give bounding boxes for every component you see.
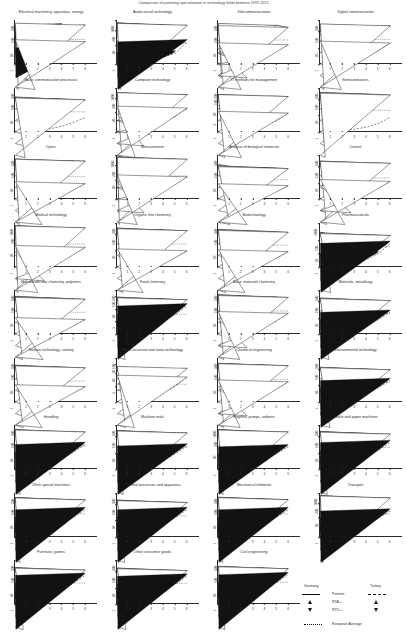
axes — [217, 223, 300, 267]
x-tick-label: 3 — [150, 270, 152, 274]
x-tick-label: 2 — [341, 540, 343, 544]
x-axis-tick-labels: 123456 — [116, 336, 199, 342]
y-axis-tick-labels: 1520100200 — [204, 90, 217, 136]
panel-title: Environmental technology — [306, 348, 406, 353]
axes — [319, 88, 402, 132]
plot-area: 110100500123456 — [1, 421, 101, 479]
panel-title: Other special machines — [1, 483, 101, 488]
axes — [116, 155, 199, 199]
x-tick-label: 2 — [138, 472, 140, 476]
x-tick-label: 4 — [162, 337, 164, 341]
x-tick-label: 3 — [150, 337, 152, 341]
x-tick-label: 3 — [150, 67, 152, 71]
panel-title: Food chemistry — [103, 280, 203, 285]
x-tick-label: 5 — [377, 337, 379, 341]
x-tick-label: 3 — [49, 270, 51, 274]
y-axis-tick-labels: 110100500 — [103, 427, 116, 473]
x-tick-label: 2 — [138, 607, 140, 611]
x-tick-label: 3 — [49, 67, 51, 71]
x-tick-label: 2 — [37, 607, 39, 611]
x-tick-label: 5 — [72, 270, 74, 274]
x-tick-label: 6 — [84, 270, 86, 274]
axes — [217, 20, 300, 64]
panel-5: Basic communication processes11010050012… — [1, 78, 101, 146]
x-tick-label: 6 — [287, 270, 289, 274]
x-tick-label: 6 — [287, 540, 289, 544]
y-axis-tick-labels: 1202001000 — [103, 157, 116, 203]
x-tick-label: 3 — [49, 607, 51, 611]
x-tick-label: 6 — [389, 135, 391, 139]
y-axis-tick-labels: 110100500 — [1, 427, 14, 473]
x-tick-label: 4 — [365, 472, 367, 476]
panel-14: Organic fine chemistry110100500123456 — [103, 213, 203, 281]
x-axis-tick-labels: 123456 — [116, 404, 199, 410]
x-tick-label: 3 — [353, 472, 355, 476]
x-tick-label: 2 — [240, 337, 242, 341]
axes — [217, 358, 300, 402]
x-tick-label: 2 — [37, 337, 39, 341]
panel-title: Engines, pumps, turbines — [204, 415, 304, 420]
x-tick-label: 4 — [264, 135, 266, 139]
x-tick-label: 4 — [162, 472, 164, 476]
x-tick-label: 4 — [365, 405, 367, 409]
x-tick-label: 3 — [252, 405, 254, 409]
x-tick-label: 5 — [174, 270, 176, 274]
x-tick-label: 4 — [61, 337, 63, 341]
x-tick-label: 3 — [49, 405, 51, 409]
x-tick-label: 6 — [186, 540, 188, 544]
panel-title: Micro-structural and nano-technology — [103, 348, 203, 353]
x-tick-label: 2 — [37, 472, 39, 476]
plot-area: 1202001000123456 — [204, 421, 304, 479]
x-axis-tick-labels: 123456 — [217, 606, 300, 612]
x-tick-label: 3 — [353, 135, 355, 139]
y-axis-tick-labels: 110100500 — [1, 495, 14, 541]
y-axis-tick-labels: 110100500 — [306, 427, 319, 473]
panel-17: Macromolecular chemistry, polymers110100… — [1, 280, 101, 348]
x-tick-label: 6 — [389, 405, 391, 409]
x-tick-label: 4 — [61, 202, 63, 206]
panel-31: Mechanical elements110100500123456 — [204, 483, 304, 551]
x-tick-label: 6 — [389, 472, 391, 476]
y-axis-tick-labels: 110100500 — [204, 22, 217, 68]
x-tick-label: 6 — [389, 540, 391, 544]
x-tick-label: 6 — [389, 202, 391, 206]
x-axis-tick-labels: 123456 — [116, 66, 199, 72]
x-tick-label: 3 — [150, 540, 152, 544]
axes — [319, 290, 402, 334]
plot-area: 110100500123456 — [103, 556, 203, 614]
x-tick-label: 4 — [61, 405, 63, 409]
panel-title: Machine tools — [103, 415, 203, 420]
x-axis-tick-labels: 123456 — [14, 134, 97, 140]
x-tick-label: 4 — [264, 405, 266, 409]
y-axis-tick-labels: 110100500 — [103, 495, 116, 541]
panel-34: Other consumer goods110100500123456 — [103, 550, 203, 618]
panel-18: Food chemistry1520100200123456 — [103, 280, 203, 348]
x-tick-label: 2 — [240, 67, 242, 71]
y-axis-tick-labels: 110100500 — [306, 157, 319, 203]
y-axis-tick-labels: 1202001000 — [306, 495, 319, 541]
x-tick-label: 2 — [240, 472, 242, 476]
x-axis-tick-labels: 123456 — [217, 201, 300, 207]
x-tick-label: 1 — [228, 135, 230, 139]
x-tick-label: 2 — [37, 202, 39, 206]
x-tick-label: 1 — [228, 202, 230, 206]
panel-26: Machine tools110100500123456 — [103, 415, 203, 483]
x-tick-label: 3 — [252, 472, 254, 476]
y-axis-tick-labels: 1202001000 — [103, 22, 116, 68]
x-tick-label: 6 — [389, 270, 391, 274]
x-axis-tick-labels: 123456 — [319, 539, 402, 545]
x-tick-label: 4 — [365, 202, 367, 206]
x-tick-label: 3 — [252, 337, 254, 341]
panel-29: Other special machines110100500123456 — [1, 483, 101, 551]
x-tick-label: 3 — [252, 135, 254, 139]
panel-title: Computer technology — [103, 78, 203, 83]
axes — [319, 155, 402, 199]
x-tick-label: 2 — [138, 337, 140, 341]
plot-area: 110100500123456 — [306, 151, 406, 209]
x-tick-label: 6 — [186, 135, 188, 139]
axes — [217, 425, 300, 469]
plot-area: 110100500123456 — [204, 489, 304, 547]
x-axis-tick-labels: 123456 — [116, 134, 199, 140]
x-tick-label: 2 — [341, 472, 343, 476]
x-tick-label: 4 — [162, 202, 164, 206]
